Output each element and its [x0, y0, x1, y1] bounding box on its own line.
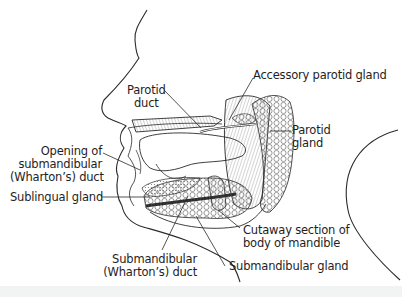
label-cutaway-section: Cutaway section of body of mandible: [243, 224, 349, 250]
label-line: gland: [292, 137, 331, 150]
label-submandibular-gland: Submandibular gland: [229, 260, 348, 273]
label-parotid-gland: Parotid gland: [292, 124, 331, 150]
label-line: (Wharton’s) duct: [10, 171, 102, 184]
label-accessory-parotid-gland: Accessory parotid gland: [253, 69, 387, 82]
label-line: body of mandible: [243, 237, 349, 250]
bottom-band: [0, 286, 402, 297]
label-line: (Wharton’s) duct: [95, 266, 197, 279]
label-line: duct: [127, 97, 166, 110]
label-opening-submandibular-duct: Opening of submandibular (Wharton’s) duc…: [10, 145, 102, 184]
salivary-glands-diagram: Parotid duct Accessory parotid gland Par…: [0, 0, 402, 297]
label-parotid-duct: Parotid duct: [127, 84, 166, 110]
label-submandibular-duct: Submandibular (Wharton’s) duct: [95, 253, 197, 279]
neck-curve: [346, 130, 400, 280]
label-sublingual-gland: Sublingual gland: [10, 191, 102, 204]
